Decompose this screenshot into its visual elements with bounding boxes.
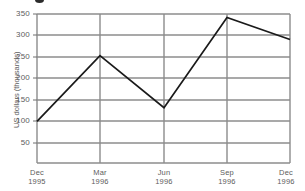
y-tick-label-350: 350 <box>6 10 30 18</box>
x-tick-month: Dec <box>263 168 305 177</box>
x-tick-label-dec-1995: Dec 1995 <box>14 168 60 186</box>
x-tick-year: 1996 <box>141 177 187 186</box>
line-chart-figure: 350 300 250 200 150 100 50 US dollars (t… <box>0 0 305 191</box>
vertical-gridlines <box>37 14 290 163</box>
chart-plot-area <box>0 0 305 191</box>
y-axis-title: US dollars (thousands) <box>13 35 21 145</box>
x-tick-month: Mar <box>77 168 123 177</box>
x-tick-month: Jun <box>141 168 187 177</box>
x-tick-label-mar-1996: Mar 1996 <box>77 168 123 186</box>
x-tick-label-dec-1996: Dec 1996 <box>263 168 305 186</box>
x-tick-month: Sep <box>204 168 250 177</box>
x-tick-year: 1995 <box>14 177 60 186</box>
x-tick-month: Dec <box>14 168 60 177</box>
x-tick-label-sep-1996: Sep 1996 <box>204 168 250 186</box>
x-tick-year: 1996 <box>263 177 305 186</box>
x-tick-year: 1996 <box>204 177 250 186</box>
x-tick-label-jun-1996: Jun 1996 <box>141 168 187 186</box>
x-tick-year: 1996 <box>77 177 123 186</box>
